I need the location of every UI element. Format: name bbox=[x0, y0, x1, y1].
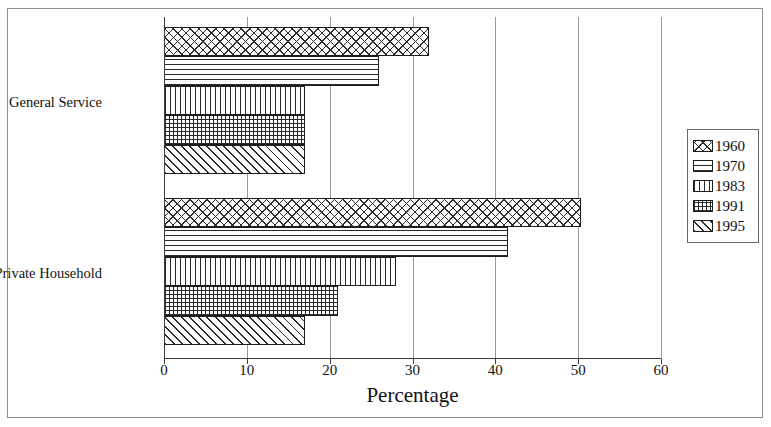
legend-swatch-1970-icon bbox=[693, 160, 713, 172]
legend-label: 1960 bbox=[715, 138, 745, 155]
bar-private-household-1995 bbox=[164, 316, 305, 345]
legend-label: 1970 bbox=[715, 158, 745, 175]
category-label-general-service: General Service bbox=[9, 94, 102, 111]
legend-swatch-1995-icon bbox=[693, 220, 713, 232]
bar-general-service-1995 bbox=[164, 145, 305, 174]
bar-private-household-1960 bbox=[164, 198, 581, 227]
gridline bbox=[661, 17, 662, 359]
legend-swatch-1983-icon bbox=[693, 180, 713, 192]
legend-label: 1991 bbox=[715, 198, 745, 215]
legend-item-1960[interactable]: 1960 bbox=[693, 136, 754, 156]
chart-frame: 0102030405060 General ServicePrivate Hou… bbox=[7, 8, 763, 418]
legend-item-1983[interactable]: 1983 bbox=[693, 176, 754, 196]
bar-private-household-1983 bbox=[164, 257, 396, 286]
legend-label: 1983 bbox=[715, 178, 745, 195]
bar-private-household-1991 bbox=[164, 286, 338, 315]
legend-item-1995[interactable]: 1995 bbox=[693, 216, 754, 236]
y-axis-line bbox=[164, 17, 165, 359]
category-label-private-household: Private Household bbox=[0, 265, 102, 282]
legend-swatch-1991-icon bbox=[693, 200, 713, 212]
x-tick-label: 60 bbox=[654, 362, 669, 378]
gridline bbox=[413, 17, 414, 359]
legend-item-1970[interactable]: 1970 bbox=[693, 156, 754, 176]
legend-label: 1995 bbox=[715, 218, 745, 235]
x-tick-label: 0 bbox=[160, 362, 168, 378]
legend: 19601970198319911995 bbox=[687, 129, 759, 243]
legend-swatch-1960-icon bbox=[693, 140, 713, 152]
x-tick-label: 50 bbox=[571, 362, 586, 378]
bar-general-service-1970 bbox=[164, 56, 379, 85]
legend-item-1991[interactable]: 1991 bbox=[693, 196, 754, 216]
x-tick-label: 40 bbox=[488, 362, 503, 378]
gridline bbox=[495, 17, 496, 359]
bar-general-service-1983 bbox=[164, 86, 305, 115]
x-tick-label: 30 bbox=[405, 362, 420, 378]
x-tick-label: 10 bbox=[239, 362, 254, 378]
gridline bbox=[578, 17, 579, 359]
x-axis-title: Percentage bbox=[164, 383, 661, 408]
plot-area bbox=[164, 17, 661, 359]
bar-private-household-1970 bbox=[164, 227, 508, 256]
x-tick-label: 20 bbox=[322, 362, 337, 378]
bar-general-service-1991 bbox=[164, 115, 305, 144]
bar-general-service-1960 bbox=[164, 27, 429, 56]
